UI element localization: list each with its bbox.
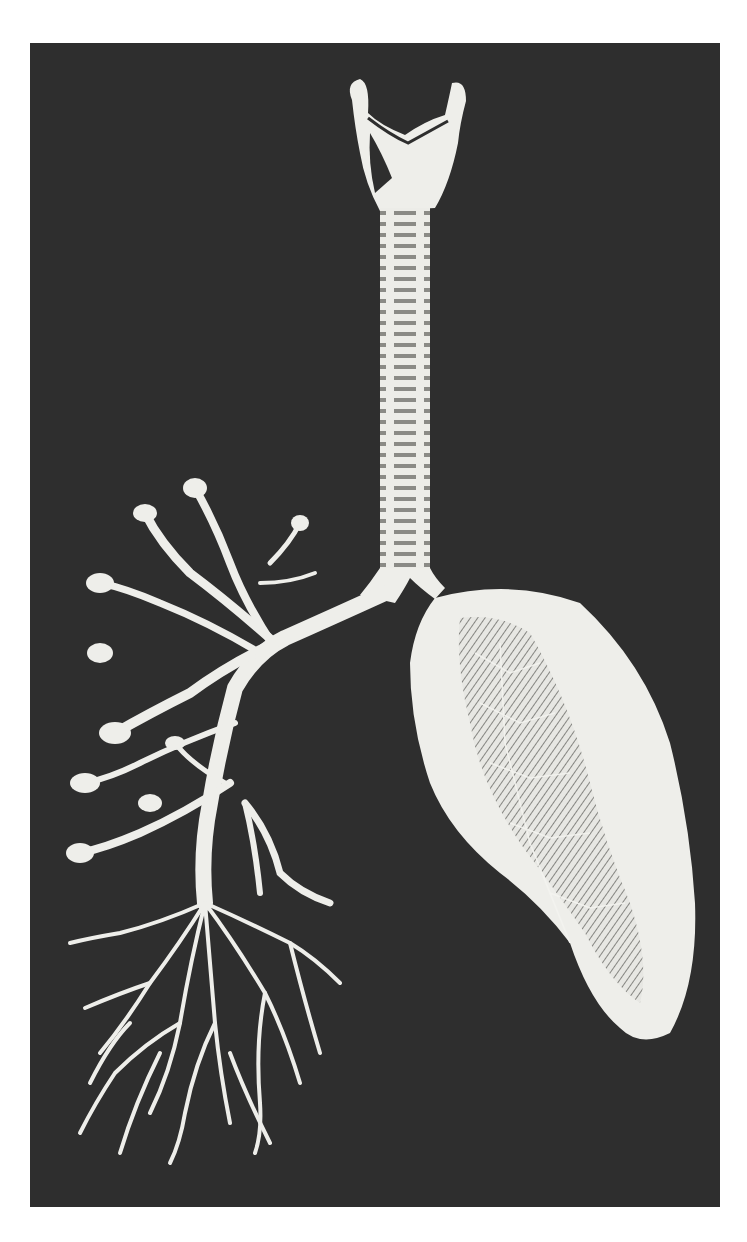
trachea bbox=[360, 208, 445, 603]
lung bbox=[410, 589, 695, 1039]
larynx bbox=[350, 79, 466, 211]
bronchial-tree bbox=[66, 478, 385, 1163]
illustration-plate bbox=[30, 43, 720, 1207]
respiratory-system-illustration bbox=[30, 43, 720, 1207]
